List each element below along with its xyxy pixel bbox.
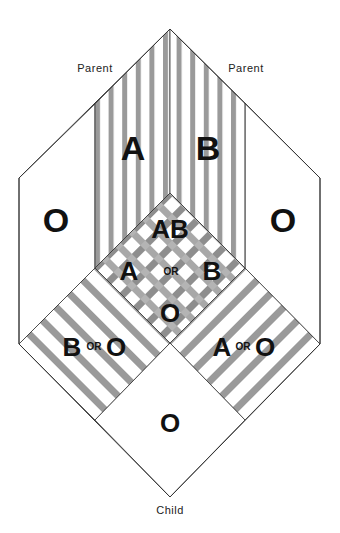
- lower-right-or: OR: [236, 341, 252, 352]
- lower-right-first-type: A: [213, 332, 232, 362]
- lower-right-second-type: O: [255, 332, 275, 362]
- right-parent-type: B: [196, 129, 221, 167]
- center-bottom-type: O: [160, 298, 180, 328]
- right-outer-type: O: [270, 201, 296, 239]
- lower-left-or: OR: [87, 341, 103, 352]
- center-or: OR: [164, 266, 180, 277]
- child-label: Child: [156, 504, 184, 516]
- parent-left-label: Parent: [77, 62, 112, 74]
- left-parent-type: A: [121, 129, 146, 167]
- parent-right-label: Parent: [228, 62, 263, 74]
- center-top-type: AB: [151, 214, 189, 244]
- center-right-type: B: [203, 256, 222, 286]
- center-left-type: A: [120, 256, 139, 286]
- lower-left-second-type: O: [106, 332, 126, 362]
- left-outer-type: O: [43, 201, 69, 239]
- blood-type-diagram: Parent Parent Child A B O O AB A OR B O …: [0, 0, 340, 533]
- lower-left-first-type: B: [63, 332, 82, 362]
- bottom-type: O: [160, 408, 180, 438]
